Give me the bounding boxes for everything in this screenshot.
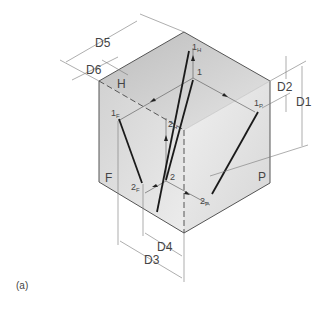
dim-label-d4: D4: [157, 240, 173, 254]
dim-label-d2: D2: [277, 80, 293, 94]
dim-label-d5: D5: [95, 36, 111, 50]
ext-d1-top: [270, 61, 306, 81]
face-label-h: H: [117, 77, 126, 91]
isometric-cube-diagram: H F P 1H 1 2H 1F 1P 2 2F 2P D5 D6 D2 D1 …: [0, 0, 323, 310]
face-label-f: F: [105, 171, 112, 185]
dim-label-d6: D6: [86, 63, 102, 77]
dim-label-d3: D3: [144, 253, 160, 267]
ext-d5-b: [140, 14, 184, 32]
point-label-2: 2: [170, 172, 175, 182]
figure-caption: (a): [16, 280, 28, 291]
face-label-p: P: [258, 170, 266, 184]
dim-label-d1: D1: [296, 95, 312, 109]
point-label-1: 1: [197, 67, 202, 77]
